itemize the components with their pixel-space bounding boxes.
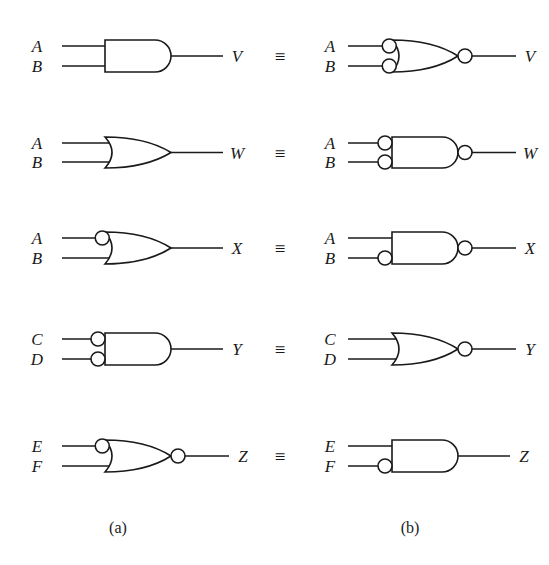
equivalence-symbol-row-w: ≡ — [275, 143, 286, 164]
gate-row-v-left: ABV — [31, 37, 245, 76]
input-label-B: B — [32, 57, 43, 76]
equivalence-symbol-row-z: ≡ — [275, 446, 286, 467]
input-inversion-bubble — [378, 459, 392, 473]
input-inversion-bubble — [382, 59, 396, 73]
output-label-V: V — [232, 47, 245, 66]
output-inversion-bubble — [458, 49, 472, 63]
input-label-B: B — [325, 57, 336, 76]
output-label-Z: Z — [519, 447, 529, 466]
output-inversion-bubble — [458, 146, 472, 160]
output-inversion-bubble — [458, 241, 472, 255]
or-gate-body — [105, 440, 171, 472]
equivalence-symbol-row-x: ≡ — [275, 238, 286, 259]
output-label-Y: Y — [525, 340, 536, 359]
input-label-A: A — [324, 134, 336, 153]
input-label-A: A — [324, 229, 336, 248]
caption-b: (b) — [401, 519, 420, 537]
and-gate-body — [392, 440, 458, 472]
input-inversion-bubble — [378, 136, 392, 150]
input-label-E: E — [324, 437, 336, 456]
input-label-A: A — [31, 134, 43, 153]
output-label-W: W — [230, 144, 246, 163]
output-label-X: X — [524, 239, 536, 258]
input-label-C: C — [324, 330, 336, 349]
logic-diagram-svg: ABVABV≡ABWABW≡ABXABX≡CDYCDY≡EFZEFZ≡(a)(b… — [0, 0, 549, 565]
gate-row-x-right: ABX — [324, 229, 536, 268]
output-inversion-bubble — [458, 342, 472, 356]
or-gate-body — [105, 137, 171, 168]
input-label-C: C — [31, 330, 43, 349]
output-inversion-bubble — [171, 449, 185, 463]
logic-gate-equivalence-figure: ABVABV≡ABWABW≡ABXABX≡CDYCDY≡EFZEFZ≡(a)(b… — [0, 0, 549, 565]
input-label-A: A — [31, 229, 43, 248]
input-label-A: A — [31, 37, 43, 56]
input-inversion-bubble — [91, 352, 105, 366]
or-gate-body — [392, 40, 458, 72]
input-inversion-bubble — [382, 39, 396, 53]
gate-row-w-left: ABW — [31, 134, 246, 172]
gate-row-v-right: ABV — [324, 37, 538, 76]
output-label-Z: Z — [238, 447, 248, 466]
output-label-Y: Y — [232, 340, 243, 359]
input-label-D: D — [30, 350, 44, 369]
input-inversion-bubble — [378, 251, 392, 265]
input-label-D: D — [323, 350, 337, 369]
and-gate-body — [392, 137, 458, 168]
equivalence-symbol-row-v: ≡ — [275, 46, 286, 67]
input-label-B: B — [325, 249, 336, 268]
equivalence-symbol-row-y: ≡ — [275, 339, 286, 360]
input-inversion-bubble — [91, 332, 105, 346]
and-gate-body — [105, 40, 171, 72]
input-inversion-bubble — [378, 155, 392, 169]
input-label-F: F — [324, 457, 336, 476]
input-inversion-bubble — [95, 439, 109, 453]
input-label-B: B — [32, 249, 43, 268]
output-label-X: X — [231, 239, 243, 258]
or-gate-body — [105, 232, 171, 264]
input-label-E: E — [31, 437, 43, 456]
gate-row-y-right: CDY — [323, 330, 536, 369]
input-label-F: F — [31, 457, 43, 476]
input-label-A: A — [324, 37, 336, 56]
gate-row-y-left: CDY — [30, 330, 243, 369]
gate-row-w-right: ABW — [324, 134, 539, 172]
and-gate-body — [105, 333, 171, 365]
gate-row-z-right: EFZ — [324, 437, 529, 476]
gate-row-x-left: ABX — [31, 229, 243, 268]
output-label-V: V — [525, 47, 538, 66]
caption-a: (a) — [109, 519, 127, 537]
input-label-B: B — [325, 153, 336, 172]
input-inversion-bubble — [95, 231, 109, 245]
input-label-B: B — [32, 153, 43, 172]
or-gate-body — [392, 333, 458, 365]
output-label-W: W — [523, 144, 539, 163]
gate-row-z-left: EFZ — [31, 437, 248, 476]
and-gate-body — [392, 232, 458, 264]
